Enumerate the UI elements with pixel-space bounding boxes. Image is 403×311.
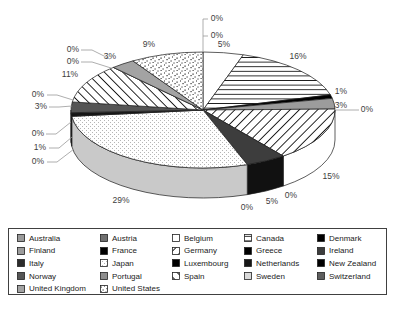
leader-line-4 (49, 106, 72, 107)
slice-label-australia: 0% (211, 13, 224, 23)
slice-label-luxembourg: 0% (32, 156, 45, 166)
legend-swatch-austria (100, 234, 108, 242)
legend-label: Sweden (256, 272, 285, 281)
legend-label: Austria (112, 234, 137, 243)
legend-item-italy: Italy (17, 259, 100, 268)
legend-item-japan: Japan (100, 259, 172, 268)
slice-label-belgium: 5% (218, 39, 231, 49)
legend-label: Greece (256, 246, 282, 255)
legend-item-france: France (100, 246, 172, 255)
legend-label: Switzerland (329, 272, 370, 281)
slice-label-ireland: 5% (266, 196, 279, 206)
legend-item-spain: Spain (172, 272, 244, 281)
slice-label-spain: 11% (62, 69, 79, 79)
legend-item-greece: Greece (244, 246, 317, 255)
legend-label: Germany (184, 246, 217, 255)
slice-label-united-kingdom: 3% (104, 51, 117, 61)
slice-label-germany: 15% (322, 171, 339, 181)
legend-item-new-zealand: New Zealand (317, 259, 386, 268)
slice-label-portugal: 0% (32, 89, 45, 99)
legend-swatch-spain (172, 272, 180, 280)
legend-swatch-greece (244, 247, 252, 255)
legend-swatch-canada (244, 234, 252, 242)
slice-label-italy: 0% (241, 202, 254, 212)
legend-label: Denmark (329, 234, 361, 243)
legend-item-norway: Norway (17, 272, 100, 281)
legend-label: United States (112, 284, 160, 293)
slice-label-sweden: 0% (67, 56, 80, 66)
legend-swatch-denmark (317, 234, 325, 242)
legend-item-austria: Austria (100, 234, 172, 243)
legend-item-belgium: Belgium (172, 234, 244, 243)
legend-label: Norway (29, 272, 56, 281)
legend-label: Canada (256, 234, 284, 243)
legend-item-switzerland: Switzerland (317, 272, 386, 281)
slice-label-japan: 29% (112, 195, 129, 205)
legend-swatch-italy (17, 259, 25, 267)
legend-label: Spain (184, 272, 204, 281)
leader-line-6 (49, 137, 72, 148)
slice-label-denmark: 1% (335, 86, 348, 96)
legend-swatch-finland (17, 247, 25, 255)
legend-label: Ireland (329, 246, 353, 255)
legend-label: Luxembourg (184, 259, 228, 268)
pie-chart-3d: 0%0%5%16%1%3%0%15%0%5%0%29%0%1%0%3%0%11%… (0, 0, 403, 228)
legend-item-australia: Australia (17, 234, 100, 243)
slice-label-canada: 16% (289, 51, 306, 61)
legend-swatch-germany (172, 247, 180, 255)
legend-item-netherlands: Netherlands (244, 259, 317, 268)
slice-label-norway: 3% (35, 101, 48, 111)
legend-swatch-new-zealand (317, 259, 325, 267)
legend-swatch-portugal (100, 272, 108, 280)
slice-label-greece: 0% (285, 190, 298, 200)
legend-label: Portugal (112, 272, 142, 281)
leader-line-3 (47, 95, 73, 100)
legend-item-canada: Canada (244, 234, 317, 243)
legend-item-ireland: Ireland (317, 246, 386, 255)
legend-label: Finland (29, 246, 55, 255)
legend-label: Australia (29, 234, 60, 243)
legend-label: United Kingdom (29, 284, 86, 293)
slice-label-france: 0% (361, 104, 374, 114)
leader-line-7 (47, 149, 74, 162)
legend-item-luxembourg: Luxembourg (172, 259, 244, 268)
legend-label: New Zealand (329, 259, 376, 268)
legend-swatch-france (100, 247, 108, 255)
leader-line-5 (46, 122, 71, 134)
legend-swatch-norway (17, 272, 25, 280)
pie-chart-canvas: 0%0%5%16%1%3%0%15%0%5%0%29%0%1%0%3%0%11%… (0, 0, 403, 228)
legend-item-denmark: Denmark (317, 234, 386, 243)
slice-label-switzerland: 0% (67, 44, 80, 54)
legend-swatch-luxembourg (172, 259, 180, 267)
slice-label-new-zealand: 0% (32, 128, 45, 138)
legend-swatch-united-states (100, 285, 108, 293)
legend-swatch-japan (100, 259, 108, 267)
legend-swatch-ireland (317, 247, 325, 255)
legend-item-united-kingdom: United Kingdom (17, 284, 100, 293)
legend-swatch-australia (17, 234, 25, 242)
legend-label: Netherlands (256, 259, 299, 268)
legend-item-united-states: United States (100, 284, 172, 293)
leader-line-0 (203, 19, 208, 52)
legend-swatch-sweden (244, 272, 252, 280)
legend-item-sweden: Sweden (244, 272, 317, 281)
leader-line-8 (81, 62, 111, 68)
slice-label-netherlands: 1% (34, 142, 47, 152)
legend-label: Italy (29, 259, 44, 268)
legend-item-finland: Finland (17, 246, 100, 255)
legend-swatch-switzerland (317, 272, 325, 280)
chart-legend: AustraliaAustriaBelgiumCanadaDenmarkFinl… (8, 228, 387, 295)
slice-label-finland: 3% (335, 100, 348, 110)
legend-swatch-netherlands (244, 259, 252, 267)
pie-chart-figure: 0%0%5%16%1%3%0%15%0%5%0%29%0%1%0%3%0%11%… (0, 0, 403, 311)
legend-item-germany: Germany (172, 246, 244, 255)
legend-swatch-belgium (172, 234, 180, 242)
legend-swatch-united-kingdom (17, 285, 25, 293)
legend-item-portugal: Portugal (100, 272, 172, 281)
legend-label: France (112, 246, 137, 255)
legend-label: Japan (112, 259, 134, 268)
slice-label-united-states: 9% (143, 39, 156, 49)
legend-label: Belgium (184, 234, 213, 243)
